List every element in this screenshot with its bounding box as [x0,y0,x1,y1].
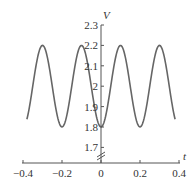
x-axis-label: t [183,150,187,162]
x-tick-label: −0.4 [13,167,33,179]
y-tick-label: 2.1 [84,60,98,72]
x-tick-label: −0.2 [52,167,72,179]
y-tick-label: 2 [93,80,99,92]
y-tick-label: 1.7 [84,141,98,153]
chart: −0.4−0.200.20.4 1.71.81.922.12.22.3 V t [0,0,193,187]
y-tick-label: 1.9 [84,101,98,113]
y-tick-label: 2.3 [84,19,98,31]
y-axis-label: V [103,9,111,21]
x-tick-label: 0.4 [172,167,186,179]
x-tick-label: 0 [98,167,104,179]
x-tick-label: 0.2 [133,167,147,179]
y-tick-label: 2.2 [84,39,98,51]
y-tick-label: 1.8 [84,121,98,133]
